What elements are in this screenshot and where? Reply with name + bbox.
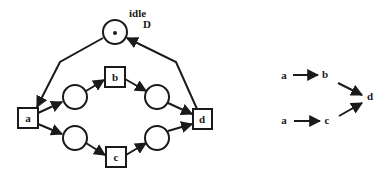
idle-sublabel: D: [143, 18, 151, 30]
place-c-d: [145, 126, 169, 150]
arc-a-to-p1: [38, 102, 62, 113]
node-d: d: [367, 90, 373, 102]
transition-d-label: d: [199, 113, 205, 125]
arc-a-to-p2: [38, 124, 62, 134]
arc-b-to-p3: [125, 79, 146, 91]
arc-p4-to-d: [168, 124, 192, 131]
node-a-top: a: [281, 69, 287, 81]
edge-b-d: [338, 83, 362, 95]
edge-c-d: [339, 103, 362, 116]
diagram-canvas: idle D a b c d a b a c d: [0, 0, 389, 178]
arc-p2-to-c: [86, 143, 105, 155]
node-b: b: [322, 68, 328, 80]
arc-p1-to-b: [86, 80, 104, 91]
idle-place: [103, 20, 127, 44]
place-a-b: [63, 85, 87, 109]
node-c: c: [325, 114, 330, 126]
transition-b-label: b: [112, 71, 118, 83]
petri-net: [18, 20, 212, 167]
transition-a-label: a: [25, 112, 31, 124]
node-a-bottom: a: [281, 114, 287, 126]
arc-p3-to-d: [168, 103, 192, 114]
place-a-c: [63, 126, 87, 150]
token-icon: [113, 31, 117, 35]
dependency-graph: a b a c d: [281, 68, 373, 126]
place-b-d: [145, 85, 169, 109]
arc-c-to-p4: [126, 143, 146, 155]
transition-c-label: c: [114, 151, 119, 163]
